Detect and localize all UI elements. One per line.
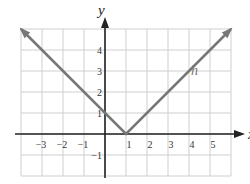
x-tick-label: −2 [57, 139, 68, 150]
x-tick-label: −1 [78, 139, 89, 150]
function-label-h: h [191, 63, 198, 78]
x-tick-label: 2 [148, 139, 153, 150]
x-tick-label: 5 [211, 139, 216, 150]
x-axis-arrow-icon [234, 130, 245, 138]
x-axis-label: x [247, 126, 250, 142]
x-tick-label: 3 [169, 139, 174, 150]
y-axis-label: y [96, 2, 105, 18]
y-tick-label: 2 [97, 87, 102, 98]
x-tick-label: −3 [36, 139, 47, 150]
grid [21, 29, 231, 176]
y-axis-arrow-icon [101, 17, 109, 28]
x-tick-label: 4 [190, 139, 195, 150]
y-tick-label: 4 [97, 45, 102, 56]
chart: −3−2−1123454321−1 x y h [0, 0, 250, 184]
y-tick-label: 3 [97, 66, 102, 77]
x-tick-label: 1 [127, 139, 132, 150]
y-tick-label: −1 [91, 150, 102, 161]
